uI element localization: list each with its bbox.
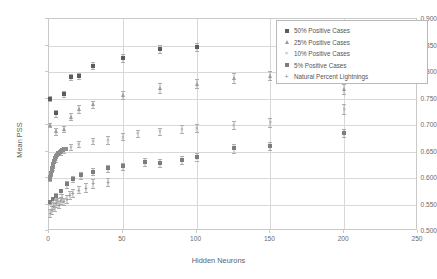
data-point-cross-x-icon: × [106,137,111,142]
data-point-filled-square-icon [48,97,52,101]
data-point-filled-square-icon [195,45,199,49]
error-bar-cap [232,73,236,74]
legend-item[interactable]: 25% Positive Cases [282,37,422,49]
error-bar-cap [48,217,52,218]
data-point-triangle-icon [91,102,95,106]
error-bar-cap [54,117,58,118]
error-bar-cap [232,144,236,145]
error-bar-cap [71,182,75,183]
legend-item-label: 50% Positive Cases [294,27,350,34]
data-point-filled-square-icon [69,75,73,79]
data-point-triangle-icon [121,93,125,97]
data-point-filled-square-icon [91,64,95,68]
x-tick-label: 150 [249,235,289,242]
data-point-triangle-icon [48,123,52,127]
error-bar-cap [195,161,199,162]
legend-marker-triangle-icon [282,38,291,47]
data-point-plus-icon: + [91,181,96,186]
y-axis-label: Mean PSS [15,122,24,157]
error-bar-cap [342,129,346,130]
data-point-filled-diamond-icon [143,160,147,164]
x-axis-label: Hidden Neurons [0,256,437,265]
x-tick-label: 0 [28,235,68,242]
data-point-filled-square-icon [121,56,125,60]
chart-legend: 50% Positive Cases25% Positive Cases×10%… [276,20,428,84]
error-bar-cap [195,88,199,89]
error-bar-cap [57,208,61,209]
x-tick-label: 250 [397,235,437,242]
data-point-cross-x-icon: × [179,127,184,132]
error-bar-cap [91,188,95,189]
error-bar-cap [91,175,95,176]
data-point-ramp-icon [64,147,68,151]
legend-item[interactable]: +Natural Percent Lightnings [282,71,422,83]
legend-item[interactable]: ×10% Positive Cases [282,48,422,60]
error-bar-cap [48,127,52,128]
data-point-plus-icon: + [106,180,111,185]
error-bar-cap [62,132,66,133]
legend-marker-plus-icon: + [282,72,291,81]
data-point-filled-diamond-icon [71,177,75,181]
data-point-filled-diamond-icon [91,170,95,174]
legend-item-label: 10% Positive Cases [294,50,350,57]
error-bar-cap [195,79,199,80]
error-bar-cap [54,135,58,136]
error-bar-cap [68,199,72,200]
data-point-filled-diamond-icon [285,63,289,67]
error-bar-cap [69,80,73,81]
data-point-filled-diamond-icon [65,182,69,186]
legend-item[interactable]: 50% Positive Cases [282,25,422,37]
error-bar-cap [158,53,162,54]
error-bar-cap [121,54,125,55]
error-bar-cap [232,129,236,130]
error-bar-cap [232,83,236,84]
x-tick-mark [196,230,197,233]
data-point-cross-x-icon: × [342,107,347,112]
error-bar-cap [77,79,81,80]
error-bar-cap [268,150,272,151]
data-point-plus-icon: + [284,74,289,79]
legend-item-label: 5% Positive Cases [294,62,347,69]
error-bar-cap [342,84,346,85]
error-bar-cap [232,153,236,154]
data-point-filled-square-icon [77,74,81,78]
error-bar-cap [121,140,125,141]
data-point-triangle-icon [69,115,73,119]
data-point-triangle-icon [268,74,272,78]
x-tick-mark [343,230,344,233]
error-bar-cap [158,167,162,168]
error-bar-cap [158,93,162,94]
data-point-triangle-icon [62,127,66,131]
chart-root: Mean PSS Hidden Neurons 0.5000.5500.6000… [0,0,437,279]
x-tick-mark [269,230,270,233]
x-tick-label: 200 [323,235,363,242]
error-bar-cap [91,144,95,145]
data-point-plus-icon: + [76,187,81,192]
gridline-horizontal [49,178,416,179]
error-bar-cap [106,172,110,173]
data-point-filled-diamond-icon [79,173,83,177]
error-bar-cap [268,71,272,72]
error-bar-cap [77,193,81,194]
data-point-filled-diamond-icon [268,144,272,148]
error-bar-cap [50,214,54,215]
x-tick-mark [417,230,418,233]
error-bar-cap [91,108,95,109]
error-bar-cap [106,186,110,187]
error-bar-cap [136,137,140,138]
data-point-filled-diamond-icon [232,146,236,150]
error-bar-cap [143,166,147,167]
error-bar-cap [106,144,110,145]
error-bar-cap [65,188,69,189]
error-bar-cap [268,127,272,128]
data-point-filled-diamond-icon [342,131,346,135]
error-bar-cap [77,113,81,114]
error-bar-cap [53,211,57,212]
legend-item[interactable]: 5% Positive Cases [282,60,422,72]
legend-marker-cross-x-icon: × [282,49,291,58]
legend-item-label: 25% Positive Cases [294,39,350,46]
data-point-triangle-icon [158,86,162,90]
error-bar-cap [121,99,125,100]
data-point-cross-x-icon: × [157,129,162,134]
data-point-triangle-icon [285,40,289,44]
